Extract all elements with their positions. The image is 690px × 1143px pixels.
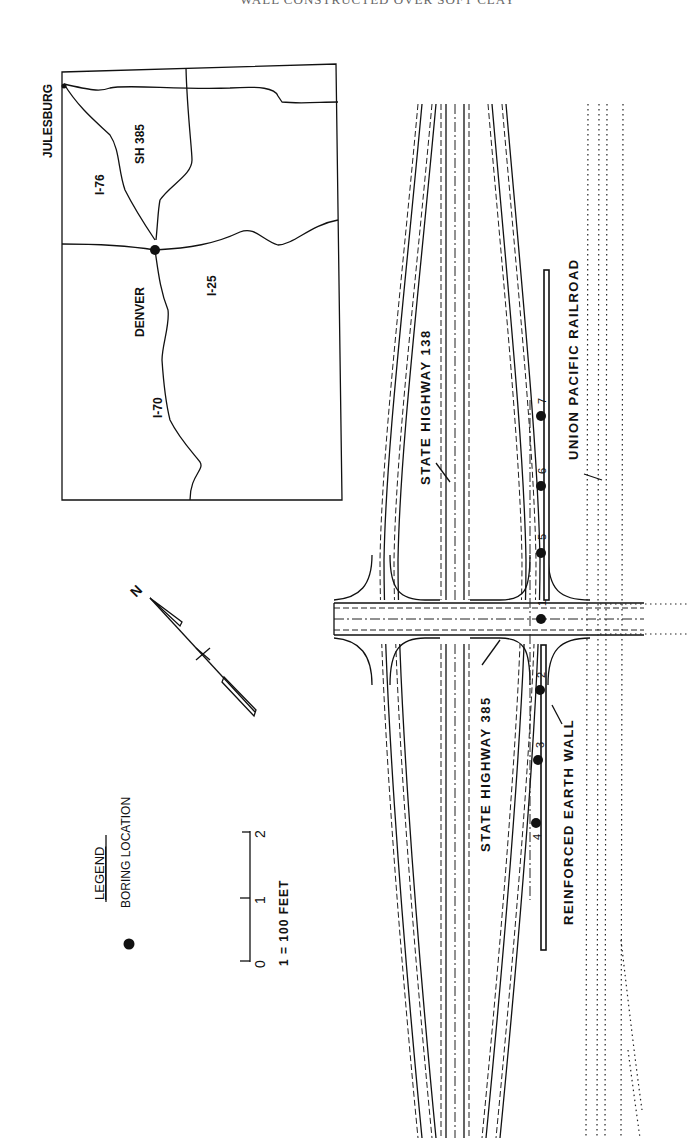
i76-label: I-76 [93,174,107,195]
north-arrow: N [127,582,256,716]
svg-text:3: 3 [534,742,546,748]
i70-road [155,250,201,500]
sh385-inset-label: SH 385 [133,124,147,164]
i25-road [62,220,338,250]
north-arrow-head-icon [150,598,182,626]
state-border-road [64,84,338,103]
denver-marker [150,245,160,255]
north-arrow-tail-icon [222,677,256,716]
wall-label: REINFORCED EARTH WALL [561,719,576,925]
sh385-label: STATE HIGHWAY 385 [478,696,493,852]
railroad-label: UNION PACIFIC RAILROAD [566,258,581,460]
scale-tick-0: 0 [252,960,268,968]
sh138-label: STATE HIGHWAY 138 [418,329,433,485]
legend: LEGEND BORING LOCATION [92,797,135,950]
sh138-leader [436,463,450,482]
svg-text:7: 7 [536,398,548,404]
scale-caption: 1 = 100 FEET [277,880,291,966]
site-plan-diagram: JULESBURG DENVER I-76 SH 385 I-25 I-70 [0,0,690,1143]
boring-location-symbol-icon [124,939,135,950]
legend-title: LEGEND [92,847,107,900]
denver-label: DENVER [133,287,147,337]
svg-text:5: 5 [536,534,548,540]
inset-map: JULESBURG DENVER I-76 SH 385 I-25 I-70 [41,64,342,500]
svg-text:1: 1 [536,600,548,606]
scale-tick-2: 2 [252,830,268,838]
svg-text:4: 4 [531,834,543,840]
svg-text:2: 2 [535,672,547,678]
scale-bar: 0 1 2 1 = 100 FEET [240,830,291,968]
julesburg-label: JULESBURG [41,84,55,158]
scale-tick-1: 1 [252,896,268,904]
julesburg-marker [62,84,67,89]
svg-text:N: N [127,582,145,600]
i70-label: I-70 [151,397,165,418]
svg-text:6: 6 [536,468,548,474]
sh385-road [156,68,192,240]
i25-label: I-25 [205,275,219,296]
legend-item-boring-location: BORING LOCATION [119,797,133,908]
